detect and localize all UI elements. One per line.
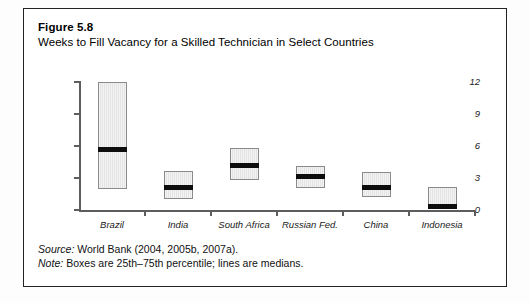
x-axis-label: Indonesia xyxy=(409,219,475,231)
figure-header: Figure 5.8 Weeks to Fill Vacancy for a S… xyxy=(38,20,478,50)
box-plot-median-line xyxy=(98,147,127,152)
y-tick-mark xyxy=(74,81,79,82)
y-tick-label: 3 xyxy=(464,173,480,183)
x-axis-label: Russian Fed. xyxy=(277,219,343,231)
y-axis-line xyxy=(79,81,81,212)
x-tick-mark xyxy=(474,211,475,216)
x-axis-label: China xyxy=(343,219,409,231)
footnotes: Source: World Bank (2004, 2005b, 2007a).… xyxy=(38,242,488,270)
box-plot-median-line xyxy=(230,163,259,168)
x-tick-mark xyxy=(342,211,343,216)
note-line: Note: Boxes are 25th–75th percentile; li… xyxy=(38,256,488,270)
source-text: World Bank (2004, 2005b, 2007a). xyxy=(74,243,238,255)
box-plot-median-line xyxy=(428,204,457,209)
y-tick-mark xyxy=(74,177,79,178)
figure-number: Figure 5.8 xyxy=(38,20,478,35)
note-text: Boxes are 25th–75th percentile; lines ar… xyxy=(63,257,303,269)
y-tick-label: 12 xyxy=(464,77,480,87)
box-plot-median-line xyxy=(296,174,325,179)
note-label: Note: xyxy=(38,257,63,269)
y-tick-mark xyxy=(74,113,79,114)
source-line: Source: World Bank (2004, 2005b, 2007a). xyxy=(38,242,488,256)
y-tick-label: 9 xyxy=(464,109,480,119)
x-axis-label: South Africa xyxy=(211,219,277,231)
y-tick-mark xyxy=(74,145,79,146)
box-plot-chart: 036912 BrazilIndiaSouth AfricaRussian Fe… xyxy=(56,77,480,232)
y-tick-label: 6 xyxy=(464,141,480,151)
source-label: Source: xyxy=(38,243,74,255)
figure-frame: Figure 5.8 Weeks to Fill Vacancy for a S… xyxy=(23,8,507,287)
figure-title: Weeks to Fill Vacancy for a Skilled Tech… xyxy=(38,35,478,50)
x-axis-label: Brazil xyxy=(79,219,145,231)
x-tick-mark xyxy=(144,211,145,216)
box-plot-median-line xyxy=(362,185,391,190)
plot-inner: 036912 BrazilIndiaSouth AfricaRussian Fe… xyxy=(56,77,480,232)
y-tick-label: 0 xyxy=(464,205,480,215)
x-tick-mark xyxy=(408,211,409,216)
x-axis-label: India xyxy=(145,219,211,231)
x-tick-mark xyxy=(210,211,211,216)
y-tick-mark xyxy=(74,209,79,210)
x-tick-mark xyxy=(276,211,277,216)
box-plot-median-line xyxy=(164,185,193,190)
box-plot-box xyxy=(98,82,127,189)
